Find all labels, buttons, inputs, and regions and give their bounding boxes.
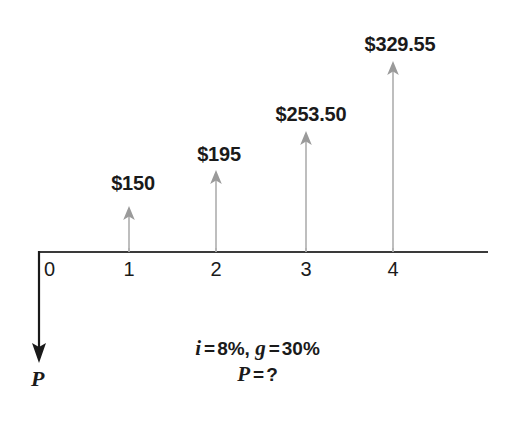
cash-flow-label-4: $329.55	[365, 33, 436, 56]
unknown-equals-sign: =	[251, 364, 266, 385]
growth-equals-sign: =	[267, 338, 282, 359]
cash-flow-label-1: $150	[111, 172, 155, 195]
interest-symbol: i	[195, 336, 202, 360]
cash-flow-arrow-1	[123, 206, 135, 252]
growth-symbol: g	[255, 336, 267, 360]
period-label-1: 1	[123, 258, 134, 281]
parameters-note-line: i=8%, g=30%	[0, 336, 515, 361]
period-label-0: 0	[44, 258, 55, 281]
period-label-2: 2	[210, 258, 221, 281]
cash-flow-diagram: $150 $195 $253.50 $329.55 0 1 2 3 4 P i=…	[0, 0, 515, 427]
growth-value: 30%	[282, 338, 320, 359]
interest-value: 8%,	[217, 338, 250, 359]
unknown-note-line: P=?	[0, 362, 515, 387]
cash-flow-arrow-4	[387, 61, 399, 252]
period-label-3: 3	[300, 258, 311, 281]
cash-flow-arrow-3	[300, 131, 312, 252]
cash-flow-label-3: $253.50	[276, 103, 347, 126]
interest-equals-sign: =	[202, 338, 217, 359]
period-label-4: 4	[387, 258, 398, 281]
unknown-symbol: P	[237, 362, 251, 386]
unknown-value: ?	[266, 364, 278, 385]
cash-flow-label-2: $195	[197, 143, 241, 166]
cash-flow-arrow-2	[210, 170, 222, 252]
